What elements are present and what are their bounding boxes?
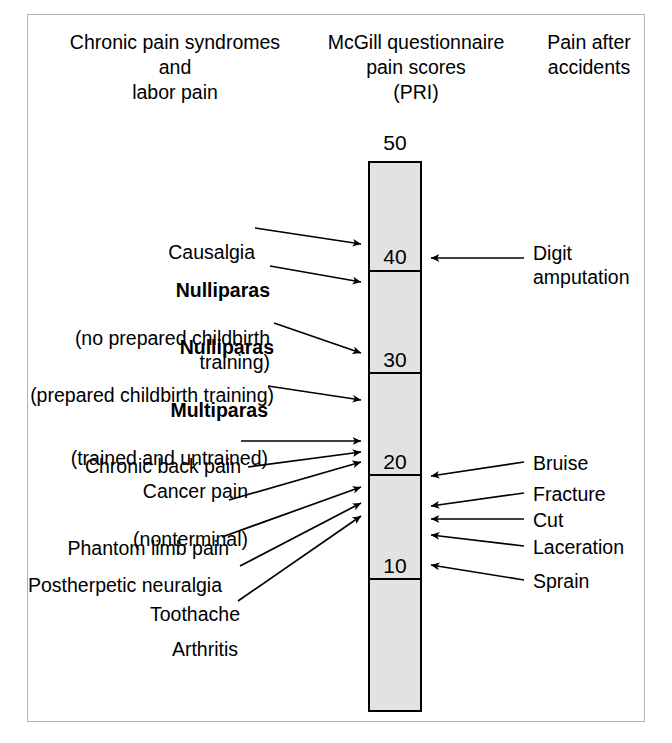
label-cancer-pain-title: Cancer pain [50, 479, 248, 503]
scale-top-label: 50 [368, 132, 422, 153]
label-nulliparas-trained-title: Nulliparas [24, 335, 274, 359]
tick-label-20: 20 [368, 451, 422, 472]
tick-label-30: 30 [368, 349, 422, 370]
label-sprain: Sprain [533, 569, 653, 593]
label-nulliparas-untrained-title: Nulliparas [24, 278, 270, 302]
tick-line-40 [368, 270, 422, 272]
pain-score-scale-bar [368, 161, 422, 712]
tick-line-10 [368, 578, 422, 580]
label-arthritis-text: Arthritis [172, 638, 238, 660]
mcgill-pain-score-figure: Chronic pain syndromes and labor pain Mc… [0, 0, 672, 743]
tick-line-20 [368, 474, 422, 476]
label-digit-amputation: Digit amputation [533, 241, 653, 289]
tick-label-40: 40 [368, 246, 422, 267]
tick-label-10: 10 [368, 555, 422, 576]
tick-line-30 [368, 372, 422, 374]
label-arthritis: Arthritis [60, 613, 238, 661]
right-leader-lines [431, 258, 524, 580]
label-bruise: Bruise [533, 451, 653, 475]
label-cut: Cut [533, 508, 653, 532]
label-laceration: Laceration [533, 535, 653, 559]
label-fracture: Fracture [533, 482, 653, 506]
label-multiparas-title: Multiparas [24, 398, 268, 422]
